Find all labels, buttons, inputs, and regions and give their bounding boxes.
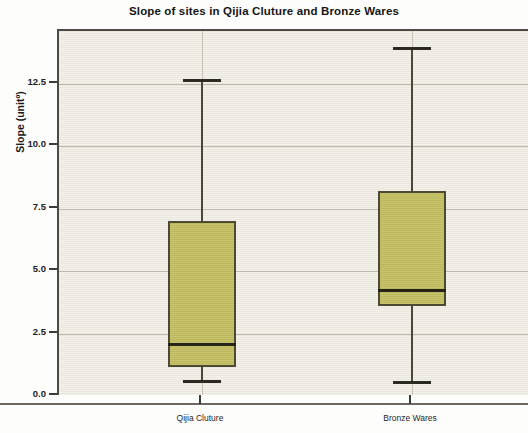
plot-area [57,29,528,395]
boxplot-chart: Slope of sites in Qijia Cluture and Bron… [0,0,528,433]
x-tick-label-0: Qijia Cluture [120,413,280,423]
x-tick-0 [199,395,201,404]
x-axis-baseline [0,403,528,405]
y-tick-2.5 [49,331,57,333]
whisker-cap-upper-1 [393,47,431,50]
box-fill-texture-1 [380,193,444,304]
y-tick-label-10.0: 10.0 [6,138,46,149]
y-tick-label-5.0: 5.0 [6,263,46,274]
y-tick-label-7.5: 7.5 [6,201,46,212]
y-tick-0.0 [49,393,57,395]
y-tick-7.5 [49,206,57,208]
x-tick-label-1: Bronze Wares [330,413,490,423]
boxplot-1[interactable] [59,31,528,395]
y-tick-12.5 [49,81,57,83]
whisker-cap-lower-1 [393,381,431,384]
whisker-upper-1 [411,47,413,192]
y-tick-label-0.0: 0.0 [6,388,46,399]
whisker-lower-1 [411,306,413,381]
median-line-1 [378,289,446,292]
x-tick-1 [409,395,411,404]
y-tick-10.0 [49,143,57,145]
chart-title: Slope of sites in Qijia Cluture and Bron… [0,5,528,17]
y-tick-5.0 [49,268,57,270]
y-tick-label-12.5: 12.5 [6,76,46,87]
y-tick-label-2.5: 2.5 [6,326,46,337]
